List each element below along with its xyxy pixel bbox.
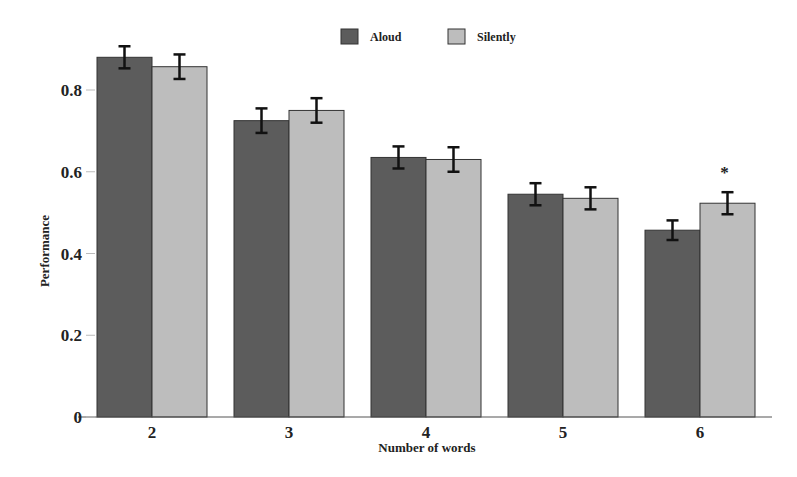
- bar-chart: AloudSilently * 2345600.20.40.60.8 Numbe…: [0, 0, 797, 477]
- y-tick-label: 0: [74, 408, 83, 427]
- significance-marker: *: [720, 163, 729, 182]
- y-tick-label: 0.4: [61, 245, 83, 264]
- bars: *: [97, 46, 755, 417]
- bar-silently-5: [563, 198, 618, 417]
- legend-label-silently: Silently: [477, 30, 516, 44]
- x-axis-title: Number of words: [378, 440, 475, 455]
- x-tick-label: 3: [285, 423, 294, 442]
- legend: AloudSilently: [341, 29, 516, 44]
- bar-aloud-6: [645, 230, 700, 417]
- legend-swatch-aloud: [341, 29, 358, 44]
- legend-swatch-silently: [448, 29, 465, 44]
- bar-aloud-4: [371, 157, 426, 417]
- y-tick-label: 0.6: [61, 163, 82, 182]
- bar-aloud-5: [508, 194, 563, 417]
- bar-silently-6: [700, 203, 755, 417]
- y-axis-title: Performance: [37, 215, 52, 287]
- bar-aloud-3: [234, 121, 289, 417]
- y-tick-label: 0.2: [61, 326, 82, 345]
- bar-silently-2: [152, 67, 207, 417]
- x-tick-label: 6: [696, 423, 705, 442]
- bar-aloud-2: [97, 57, 152, 417]
- legend-label-aloud: Aloud: [370, 30, 402, 44]
- bar-silently-4: [426, 159, 481, 417]
- x-tick-label: 2: [148, 423, 157, 442]
- bar-silently-3: [289, 110, 344, 417]
- y-tick-label: 0.8: [61, 81, 82, 100]
- x-tick-label: 5: [559, 423, 568, 442]
